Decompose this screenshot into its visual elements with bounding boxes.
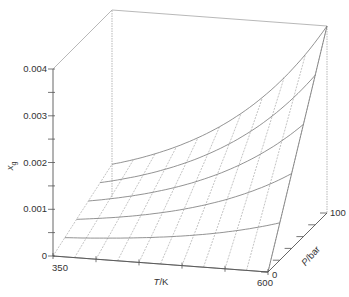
surface-T-line (204, 97, 263, 267)
surface-chart: 0.004 0.003 0.002 0.001 0 xg 350 600 T/K… (0, 0, 349, 297)
z-tick-label-0: 0 (42, 250, 47, 261)
y-axis-title: P/bar (299, 244, 322, 268)
z-axis-tick-labels: 0.004 0.003 0.002 0.001 0 (23, 63, 47, 261)
x-tick-label-600: 600 (257, 277, 273, 288)
surface-P-curve (112, 26, 327, 164)
t-axis-line (53, 256, 268, 272)
axes (48, 69, 327, 275)
surface-T-line (118, 147, 177, 261)
left-top-edge (53, 10, 112, 69)
surface-mesh (53, 26, 327, 272)
z-tick-label-0.002: 0.002 (23, 157, 47, 168)
y-tick-label-100: 100 (330, 207, 346, 218)
surface-T-line (161, 127, 220, 264)
surface-T-line (96, 154, 155, 259)
surface-T-line (139, 138, 198, 263)
y-tick-label-0: 0 (272, 269, 277, 280)
z-tick-label-0.001: 0.001 (23, 203, 47, 214)
svg-text:P/bar: P/bar (299, 244, 322, 268)
bounding-box (53, 10, 327, 213)
surface-P-curve (100, 75, 315, 182)
surface-right-edge (268, 26, 327, 272)
z-tick-label-0.003: 0.003 (23, 110, 47, 121)
svg-text:xg: xg (4, 162, 18, 172)
x-axis-title: T/K (154, 276, 169, 287)
z-tick-label-0.004: 0.004 (23, 63, 47, 74)
p-axis-line (268, 213, 327, 272)
x-tick-label-350: 350 (52, 262, 68, 273)
surface-T-line (182, 114, 241, 266)
x-title-rest: /K (159, 276, 169, 287)
surface-T-line (225, 78, 284, 269)
surface-P-curve (77, 174, 292, 220)
back-top-edge (112, 10, 327, 26)
z-title-sub: g (10, 162, 18, 166)
surface-P-curve (65, 223, 280, 238)
z-axis-title: xg (4, 162, 18, 172)
